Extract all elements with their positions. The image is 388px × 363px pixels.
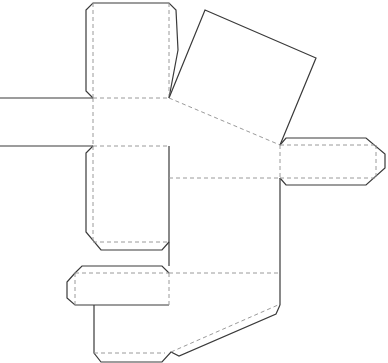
main-body (93, 145, 280, 305)
bottom-left-tab (67, 266, 169, 305)
tilted-square-lid (169, 10, 316, 145)
top-flap (86, 3, 178, 98)
diagram-canvas (0, 0, 388, 363)
box-net-svg (0, 0, 388, 363)
left-strip (0, 98, 93, 146)
middle-left-flap (86, 146, 169, 250)
bottom-panel (94, 305, 280, 362)
right-tab (280, 138, 385, 185)
